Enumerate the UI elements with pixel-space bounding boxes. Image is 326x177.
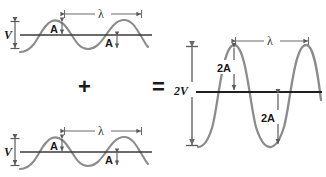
wave-curve-top-left [20,20,148,52]
amplitude-crest-label-top-left: A [50,23,58,35]
amplitude-trough-label-right: 2A [261,112,275,124]
equals-operator: = [152,74,165,99]
amplitude-crest-label-bottom-left: A [50,140,58,152]
wavelength-label-right: λ [267,34,273,48]
wave-curve-bottom-left [20,137,148,169]
amplitude-trough-label-bottom-left: A [105,154,113,166]
figure-canvas: V λ A A + = V [0,0,326,177]
voltage-label-top-left: V [4,28,13,42]
panel-wave-right: 2V λ 2A 2A [173,33,322,147]
wave-superposition-diagram: V λ A A + = V [0,0,326,177]
wavelength-label-top-left: λ [98,7,104,21]
amplitude-crest-label-right: 2A [217,62,231,74]
voltage-label-bottom-left: V [4,145,13,159]
amplitude-trough-label-top-left: A [105,37,113,49]
voltage-label-right: 2V [173,84,189,98]
plus-operator: + [78,74,91,99]
panel-wave-top-left: V λ A A [4,6,152,52]
panel-wave-bottom-left: V λ A A [4,123,152,169]
wavelength-label-bottom-left: λ [98,124,104,138]
